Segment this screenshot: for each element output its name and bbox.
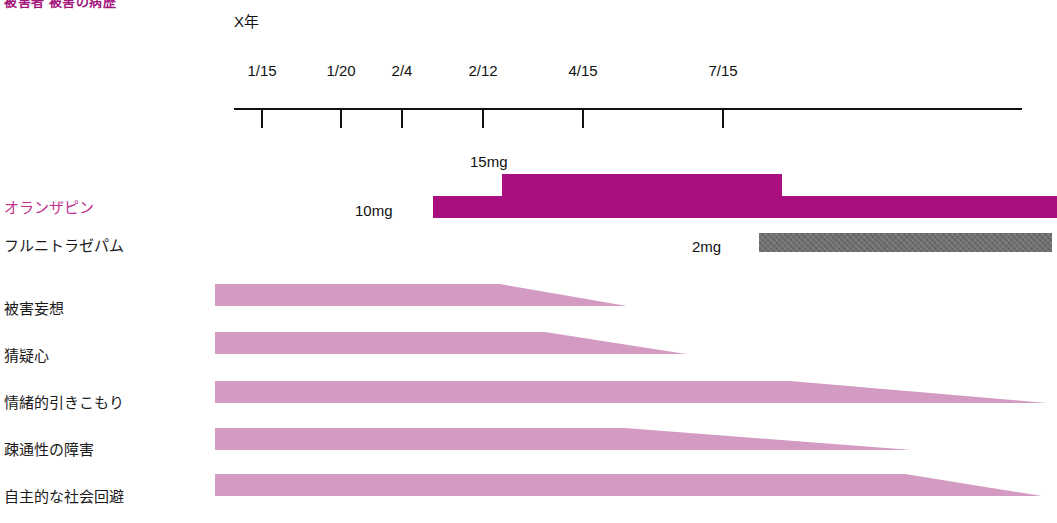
axis-tick-label: 1/20 [326,62,355,79]
symptom-severity-wedge [215,474,1042,496]
axis-tick-label: 4/15 [568,62,597,79]
axis-tick-label: 2/12 [468,62,497,79]
axis-tick-mark [401,110,403,128]
axis-tick-mark [582,110,584,128]
medication-dose-bar [759,233,1052,252]
axis-tick-mark [261,110,263,128]
medication-dose-bar [502,174,782,196]
symptom-severity-wedge [215,381,1047,403]
symptom-label: 自主的な社会回避 [4,485,124,506]
axis-tick-label: 7/15 [708,62,737,79]
symptom-label: 疎通性の障害 [4,438,94,459]
axis-tick-label: 2/4 [392,62,413,79]
medication-dose-bar [433,196,1057,218]
dose-label: 10mg [355,202,393,219]
medication-label: オランザピン [4,196,94,217]
symptom-severity-wedge [215,332,686,354]
symptom-severity-wedge [215,428,912,450]
timeline-chart: 被害者 被害の病歴 X年 1/151/202/42/124/157/15 オラン… [0,0,1057,523]
symptom-label: 猜疑心 [4,344,49,365]
chart-title: 被害者 被害の病歴 [4,0,116,10]
axis-year-label: X年 [234,10,259,31]
axis-line [234,108,1022,110]
axis-tick-mark [340,110,342,128]
medication-label: フルニトラゼパム [4,234,124,255]
axis-tick-mark [722,110,724,128]
dose-label: 15mg [470,153,508,170]
symptom-label: 被害妄想 [4,297,64,318]
symptom-label: 情緒的引きこもり [4,391,124,412]
axis-tick-label: 1/15 [247,62,276,79]
dose-label: 2mg [692,238,721,255]
symptom-severity-wedge [215,284,627,306]
axis-tick-mark [482,110,484,128]
